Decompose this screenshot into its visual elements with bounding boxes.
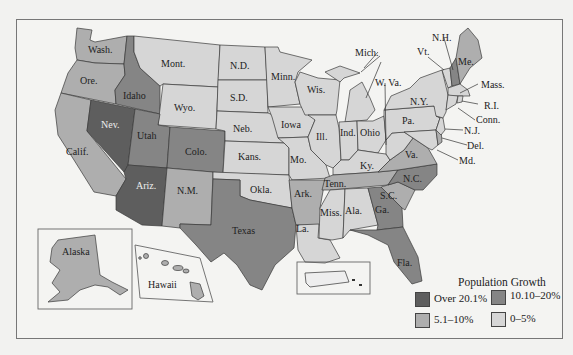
label-colo: Colo.	[185, 146, 207, 157]
label-me: Me.	[458, 56, 474, 67]
label-wva: W. Va.	[375, 77, 401, 88]
label-mich: Mich.	[355, 47, 379, 58]
label-ga: Ga.	[375, 204, 389, 215]
legend-label-0-5: 0–5%	[510, 312, 536, 324]
label-mass: Mass.	[481, 79, 505, 90]
label-mo: Mo.	[290, 154, 306, 165]
label-ky: Ky.	[360, 160, 374, 171]
label-ariz: Ariz.	[136, 180, 156, 191]
state-fla	[350, 227, 422, 284]
label-calif: Calif.	[66, 146, 89, 157]
label-la: La.	[296, 223, 309, 234]
label-nd: N.D.	[230, 60, 249, 71]
label-neb: Neb.	[233, 123, 252, 134]
label-ny: N.Y.	[410, 96, 428, 107]
label-sc: S.C.	[380, 190, 397, 201]
label-ill: Ill.	[316, 131, 327, 142]
label-va: Va.	[405, 149, 418, 160]
label-fla: Fla.	[397, 257, 412, 268]
legend-label-5-10: 5.1–10%	[434, 313, 473, 325]
legend-swatch-5-10	[415, 313, 430, 328]
label-ohio: Ohio	[360, 127, 380, 138]
label-mont: Mont.	[161, 58, 185, 69]
label-md: Md.	[459, 155, 475, 166]
label-wyo: Wyo.	[174, 102, 195, 113]
label-del: Del.	[467, 140, 484, 151]
label-ala: Ala.	[345, 205, 362, 216]
legend-label-over-20: Over 20.1%	[434, 292, 487, 304]
state-nm	[162, 168, 213, 228]
label-tenn: Tenn.	[324, 178, 346, 189]
legend-label-10-20: 10.10–20%	[510, 289, 560, 301]
legend-swatch-10-20	[491, 290, 506, 305]
label-minn: Minn.	[271, 71, 295, 82]
label-sd: S.D.	[230, 92, 248, 103]
label-conn: Conn.	[476, 114, 500, 125]
label-utah: Utah	[137, 130, 156, 141]
state-ariz	[116, 165, 167, 226]
label-vt: Vt.	[417, 46, 430, 57]
label-iowa: Iowa	[281, 119, 302, 130]
label-miss: Miss.	[320, 207, 342, 218]
label-hawaii: Hawaii	[148, 279, 177, 290]
territory-pr-islet	[352, 279, 355, 281]
label-texas: Texas	[232, 225, 255, 236]
label-nh: N.H.	[432, 32, 451, 43]
label-nj: N.J.	[464, 125, 480, 136]
label-nm: N.M.	[177, 185, 198, 196]
label-nc: N.C.	[403, 173, 422, 184]
label-ind: Ind.	[340, 127, 356, 138]
label-nev: Nev.	[101, 119, 120, 130]
label-kans: Kans.	[238, 151, 261, 162]
label-alaska: Alaska	[62, 246, 90, 257]
label-ri: R.I.	[484, 100, 499, 111]
state-ri	[457, 96, 463, 103]
state-hawaii	[139, 254, 204, 301]
legend-title: Population Growth	[458, 276, 546, 288]
state-conn	[446, 95, 458, 110]
label-wis: Wis.	[307, 84, 325, 95]
label-ore: Ore.	[80, 75, 98, 86]
label-idaho: Idaho	[123, 90, 146, 101]
territory-pr-islet	[359, 284, 362, 286]
legend-swatch-0-5	[491, 312, 506, 327]
label-okla: Okla.	[250, 184, 272, 195]
label-wash: Wash.	[88, 44, 112, 55]
label-ark: Ark.	[294, 188, 312, 199]
label-pa: Pa.	[402, 115, 415, 126]
legend-swatch-over-20	[415, 292, 430, 307]
territory-puerto-rico	[305, 271, 349, 287]
